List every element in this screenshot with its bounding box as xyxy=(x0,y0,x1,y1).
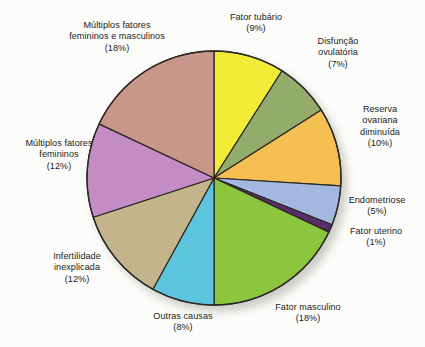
slice-label-multiplos-fatores-femininos-masculinos: Múltiplos fatores femininos e masculinos… xyxy=(36,20,198,54)
slice-label-endometriose: Endometriose (5%) xyxy=(330,195,424,218)
slice-label-fator-uterino: Fator uterino (1%) xyxy=(328,226,424,249)
slice-label-fator-masculino: Fator masculino (18%) xyxy=(252,302,364,325)
slice-label-infertilidade-inexplicada: Infertilidade inexplicada (12%) xyxy=(22,251,132,285)
slice-label-outras-causas: Outras causas (8%) xyxy=(128,311,238,334)
slice-label-reserva-ovariana-diminuida: Reserva ovariana diminuída (10%) xyxy=(338,104,422,150)
slice-label-multiplos-fatores-femininos: Múltiplos fatores femininos (12%) xyxy=(2,138,116,172)
slice-label-fator-tubario: Fator tubário (9%) xyxy=(196,12,316,35)
pie-chart-figure: Múltiplos fatores femininos e masculinos… xyxy=(0,0,425,347)
slice-label-disfuncao-ovulatoria: Disfunção ovulatória (7%) xyxy=(292,36,384,70)
